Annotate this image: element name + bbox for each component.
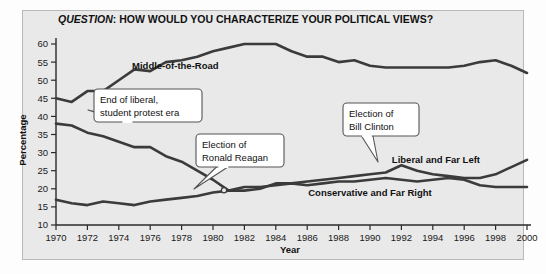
chart-frame: QUESTION: HOW WOULD YOU CHARACTERIZE YOU… (0, 0, 546, 274)
x-axis-tick-label: 1990 (359, 232, 380, 243)
annotation-clinton: Election ofBill Clinton (343, 103, 419, 162)
chart-series-lines (56, 44, 527, 205)
y-axis-tick-label: 30 (37, 147, 48, 158)
y-axis-tick-label: 40 (37, 111, 48, 122)
y-axis-tick-label: 10 (37, 219, 48, 230)
y-axis-tick-label: 55 (37, 57, 48, 68)
annotation-line: student protest era (100, 107, 180, 118)
y-axis-tick-label: 45 (37, 93, 48, 104)
x-axis-tick-label: 1980 (202, 232, 223, 243)
x-axis-tick-label: 1976 (140, 232, 161, 243)
chart-title-rest: : HOW WOULD YOU CHARACTERIZE YOUR POLITI… (113, 13, 433, 25)
y-axis-tick-label: 60 (37, 38, 48, 49)
annotation-line: Ronald Reagan (202, 152, 268, 163)
y-axis-tick-label: 20 (37, 183, 48, 194)
y-axis-tick-label: 25 (37, 165, 48, 176)
annotation-line: Bill Clinton (349, 121, 394, 132)
x-axis-tick-label: 1970 (45, 232, 66, 243)
series-line-conservative-and-far-right (56, 178, 527, 205)
annotation-liberal-era: End of liberal,student protest era (88, 89, 202, 122)
political-views-line-chart: QUESTION: HOW WOULD YOU CHARACTERIZE YOU… (0, 0, 546, 274)
series-label-liberal-and-far-left: Liberal and Far Left (392, 154, 481, 165)
x-axis-tick-label: 1992 (391, 232, 412, 243)
series-label-middle-of-the-road: Middle-of-the-Road (132, 60, 219, 71)
x-axis-tick-label: 1998 (485, 232, 506, 243)
x-axis-tick-label: 1972 (77, 232, 98, 243)
x-axis-tick-label: 2000 (516, 232, 537, 243)
x-axis-tick-label: 1974 (108, 232, 129, 243)
y-axis-title: Percentage (17, 114, 28, 165)
x-axis-tick-label: 1984 (265, 232, 286, 243)
annotation-reagan: Election ofRonald Reagan (194, 134, 284, 189)
x-axis-title: Year (280, 244, 300, 255)
x-axis-tick-label: 1982 (234, 232, 255, 243)
series-label-conservative-and-far-right: Conservative and Far Right (308, 187, 432, 198)
chart-annotations: End of liberal,student protest eraElecti… (88, 89, 419, 193)
y-axis-tick-label: 50 (37, 75, 48, 86)
chart-title: QUESTION: HOW WOULD YOU CHARACTERIZE YOU… (58, 13, 433, 25)
chart-title-question-word: QUESTION (58, 13, 113, 25)
y-axis-tick-label: 35 (37, 129, 48, 140)
x-axis-tick-label: 1986 (297, 232, 318, 243)
x-axis-tick-label: 1988 (328, 232, 349, 243)
annotation-line: End of liberal, (100, 94, 158, 105)
x-axis-tick-label: 1996 (454, 232, 475, 243)
annotation-line: Election of (349, 108, 394, 119)
annotation-line: Election of (202, 139, 247, 150)
y-axis-tick-label: 15 (37, 201, 48, 212)
reagan-point-marker (221, 188, 226, 193)
x-axis-tick-label: 1978 (171, 232, 192, 243)
x-axis-tick-label: 1994 (422, 232, 443, 243)
chart-series-labels: Middle-of-the-RoadLiberal and Far LeftCo… (132, 60, 481, 198)
